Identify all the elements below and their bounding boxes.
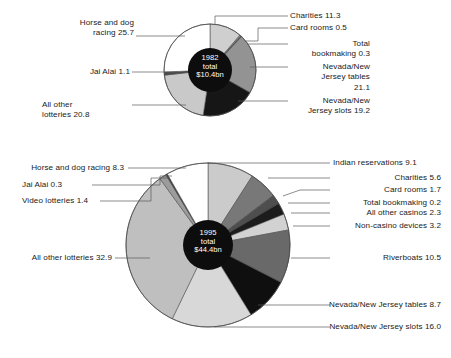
pie-center-hub [183, 220, 233, 270]
label-total-bookmaking-1982: Total bookmaking 0.3 [290, 39, 370, 60]
label-total-bookmaking-1995: Total bookmaking 0.2 [333, 198, 441, 208]
label-all-other-lotteries-1995: All other lotteries 32.9 [8, 253, 112, 263]
label-jai-alai-1982: Jai Alai 1.1 [56, 67, 130, 77]
label-card-rooms-1982: Card rooms 0.5 [290, 23, 420, 33]
label-video-lotteries-1995: Video lotteries 1.4 [22, 196, 102, 206]
pie-chart-1995 [126, 163, 290, 327]
label-card-rooms-1995: Card rooms 1.7 [333, 185, 441, 195]
label-nevada-new-jersey-tables-1995: Nevada/New Jersey tables 8.7 [315, 300, 441, 310]
label-all-other-casinos-1995: All other casinos 2.3 [333, 208, 441, 218]
pie-center-hub [188, 48, 232, 92]
label-nevada-new-jersey-slots-1982: Nevada/New Jersey slots 19.2 [284, 96, 370, 117]
label-horse-and-dog-racing-1995: Horse and dog racing 8.3 [16, 163, 124, 173]
label-nevada-new-jersey-slots-1995: Nevada/New Jersey slots 16.0 [315, 322, 441, 332]
label-charities-1982: Charities 11.3 [290, 11, 420, 21]
label-jai-alai-1995: Jai Alai 0.3 [22, 180, 96, 190]
pie-chart-1982 [164, 24, 256, 116]
label-all-other-lotteries-1982: All other lotteries 20.8 [42, 100, 134, 121]
label-indian-reservations-1995: Indian reservations 9.1 [333, 158, 451, 168]
label-riverboats-1995: Riverboats 10.5 [333, 253, 441, 263]
label-non-casino-devices-1995: Non-casino devices 3.2 [333, 221, 441, 231]
label-charities-1995: Charities 5.6 [333, 173, 441, 183]
label-nevada-new-jersey-tables-1982: Nevada/New Jersey tables 21.1 [290, 62, 370, 93]
label-horse-and-dog-racing-1982: Horse and dog racing 25.7 [46, 18, 134, 39]
